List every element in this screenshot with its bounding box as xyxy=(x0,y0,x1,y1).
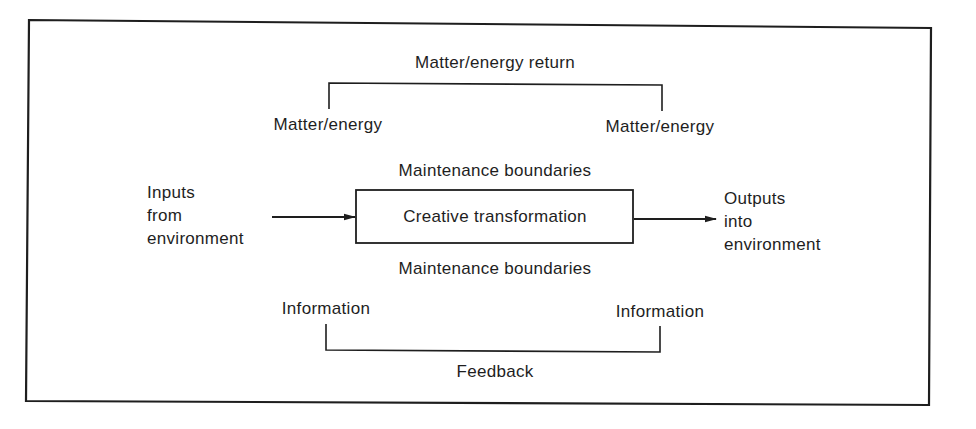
outputs-line-2: into xyxy=(724,212,753,231)
information-right-label: Information xyxy=(616,302,704,321)
matter-energy-return-label: Matter/energy return xyxy=(415,53,575,72)
maintenance-boundaries-top-label: Maintenance boundaries xyxy=(399,161,592,180)
matter-energy-return-bracket xyxy=(329,83,662,111)
inputs-line-3: environment xyxy=(147,229,244,248)
maintenance-boundaries-bottom-label: Maintenance boundaries xyxy=(399,259,592,278)
inputs-label: Inputs from environment xyxy=(147,183,244,248)
outputs-line-1: Outputs xyxy=(724,189,786,208)
outputs-line-3: environment xyxy=(724,235,821,254)
system-diagram: Matter/energy return Matter/energy Matte… xyxy=(0,0,976,429)
inputs-line-2: from xyxy=(147,206,182,225)
matter-energy-right-label: Matter/energy xyxy=(606,117,715,136)
inputs-line-1: Inputs xyxy=(147,183,195,202)
matter-energy-left-label: Matter/energy xyxy=(274,115,383,134)
information-left-label: Information xyxy=(282,299,370,318)
feedback-label: Feedback xyxy=(456,362,533,381)
feedback-bracket xyxy=(326,324,660,352)
outputs-label: Outputs into environment xyxy=(724,189,821,254)
creative-transformation-label: Creative transformation xyxy=(403,207,587,226)
